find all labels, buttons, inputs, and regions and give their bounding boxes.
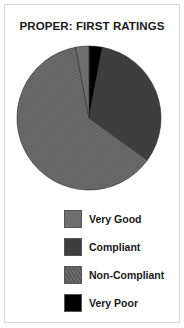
legend-label: Very Poor <box>89 297 138 309</box>
legend-label: Compliant <box>89 241 140 253</box>
pie-chart <box>0 0 184 210</box>
legend-swatch-non-compliant <box>64 266 82 284</box>
legend-label: Non-Compliant <box>89 269 164 281</box>
pie-slices <box>17 46 161 190</box>
legend-label: Very Good <box>89 213 142 225</box>
legend-swatch-very-good <box>64 210 82 228</box>
legend-swatch-very-poor <box>64 294 82 312</box>
legend-swatch-compliant <box>64 238 82 256</box>
